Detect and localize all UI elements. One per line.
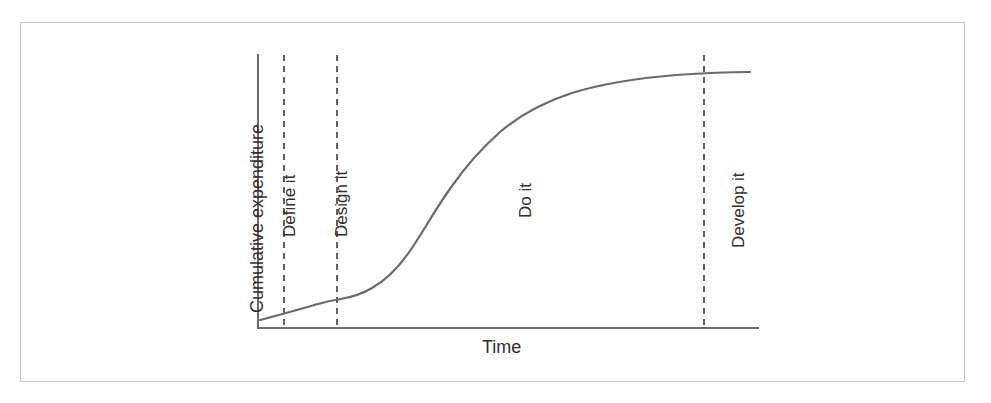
- phase-label-define-it: Define it: [281, 175, 298, 237]
- figure-root: Cumulative expenditure Define it Design …: [0, 0, 991, 403]
- phase-label-design-it: Design it: [333, 171, 350, 237]
- y-axis-label: Cumulative expenditure: [248, 124, 266, 313]
- phase-label-do-it: Do it: [517, 183, 534, 218]
- x-axis-label: Time: [482, 338, 521, 356]
- phase-label-develop-it: Develop it: [730, 172, 747, 248]
